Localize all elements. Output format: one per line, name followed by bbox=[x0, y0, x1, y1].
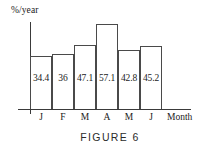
y-axis-label: %/year bbox=[11, 5, 39, 16]
bar-m-4: 42.8 bbox=[118, 50, 140, 109]
x-tick-label-4: M bbox=[118, 111, 140, 124]
bar-j-0: 34.4 bbox=[30, 56, 52, 109]
bar-m-2: 47.1 bbox=[74, 45, 96, 109]
x-tick-label-5: J bbox=[140, 111, 162, 124]
bar-value-label: 42.8 bbox=[119, 73, 139, 83]
figure-caption: FIGURE 6 bbox=[0, 131, 220, 143]
figure-6-bar-chart: %/year 34.43647.157.142.845.2 JFMAMJ Mon… bbox=[0, 0, 220, 154]
bar-j-5: 45.2 bbox=[140, 46, 162, 109]
x-axis-title: Month bbox=[167, 111, 192, 124]
bar-f-1: 36 bbox=[52, 54, 74, 109]
bar-a-3: 57.1 bbox=[96, 24, 118, 109]
bar-value-label: 47.1 bbox=[75, 73, 95, 83]
x-tick-label-1: F bbox=[52, 111, 74, 124]
x-tick-label-3: A bbox=[96, 111, 118, 124]
plot-area: 34.43647.157.142.845.2 bbox=[30, 20, 162, 109]
bar-value-label: 45.2 bbox=[141, 73, 161, 83]
bar-value-label: 34.4 bbox=[31, 73, 51, 83]
bar-value-label: 36 bbox=[53, 73, 73, 83]
x-tick-label-2: M bbox=[74, 111, 96, 124]
bar-value-label: 57.1 bbox=[97, 73, 117, 83]
x-tick-label-0: J bbox=[30, 111, 52, 124]
x-axis-line bbox=[18, 109, 191, 110]
x-axis-tick-labels: JFMAMJ bbox=[30, 111, 162, 125]
